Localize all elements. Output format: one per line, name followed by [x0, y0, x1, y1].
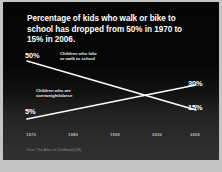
chart-figure: Percentage of kids who walk or bike to s… [0, 0, 222, 172]
annotation-walk-bike: Children who bike or walk to school [60, 51, 97, 62]
x-axis: 1970 1980 1990 2000 2006 [3, 132, 219, 144]
slide-panel: Percentage of kids who walk or bike to s… [3, 2, 219, 160]
plot-area: 50% 30% 15% 5% Children who bike or walk… [3, 48, 219, 134]
annotation-overweight-obese: Children who are overweight/obese [36, 88, 72, 99]
x-tick-4: 2006 [190, 132, 200, 137]
x-tick-0: 1970 [26, 132, 36, 137]
value-label-obese-start: 5% [25, 107, 35, 116]
x-tick-1: 1980 [68, 132, 78, 137]
x-tick-3: 2000 [152, 132, 162, 137]
value-label-walk-end: 15% [188, 103, 203, 112]
chart-title: Percentage of kids who walk or bike to s… [27, 14, 195, 46]
value-label-obese-end: 30% [188, 79, 203, 88]
x-tick-2: 1990 [110, 132, 120, 137]
value-label-walk-start: 50% [25, 51, 40, 60]
source-note: Data: The Atlas of Childhood (US) [27, 148, 81, 152]
